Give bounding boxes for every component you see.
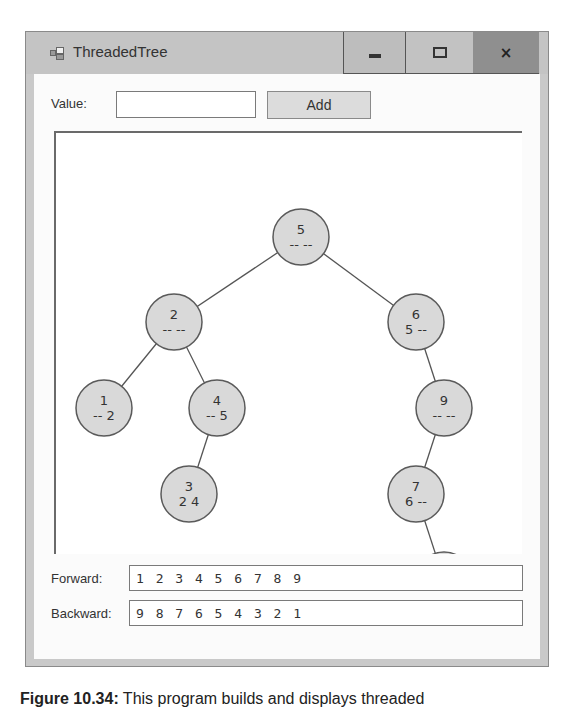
value-input[interactable] xyxy=(116,91,256,118)
add-button[interactable]: Add xyxy=(267,91,371,119)
value-label: Value: xyxy=(51,96,87,111)
node-threads: 5 -- xyxy=(405,322,427,337)
node-threads: -- -- xyxy=(433,408,456,423)
maximize-button[interactable] xyxy=(405,32,473,74)
figure-caption: Figure 10.34: This program builds and di… xyxy=(20,690,424,708)
minimize-icon xyxy=(369,54,381,58)
node-threads: 2 4 xyxy=(179,494,200,509)
close-button[interactable]: × xyxy=(473,32,539,74)
title-bar[interactable]: ThreadedTree × xyxy=(26,32,548,74)
app-icon xyxy=(50,47,64,59)
tree-node: 76 -- xyxy=(388,466,444,522)
tree-node: 9-- -- xyxy=(416,380,472,436)
tree-node: 1-- 2 xyxy=(76,380,132,436)
tree-node: 87 9 xyxy=(416,552,472,554)
tree-node: 4-- 5 xyxy=(189,380,245,436)
backward-output[interactable] xyxy=(129,600,523,626)
node-threads: -- 2 xyxy=(93,408,115,423)
tree-canvas: 5-- --2-- --65 --1-- 24-- 59-- --32 476 … xyxy=(54,131,522,554)
client-area: Value: Add 5-- --2-- --65 --1-- 24-- 59-… xyxy=(34,74,540,659)
minimize-button[interactable] xyxy=(343,32,405,74)
node-threads: -- -- xyxy=(290,237,313,252)
tree-node: 32 4 xyxy=(161,466,217,522)
close-icon: × xyxy=(500,44,513,62)
node-value: 7 xyxy=(412,479,420,494)
node-value: 5 xyxy=(297,222,305,237)
node-threads: 6 -- xyxy=(405,494,427,509)
node-value: 4 xyxy=(213,393,221,408)
node-value: 2 xyxy=(170,307,178,322)
forward-output[interactable] xyxy=(129,565,523,591)
app-window: ThreadedTree × Value: Add 5-- --2-- --65… xyxy=(25,31,549,667)
node-circle xyxy=(416,552,472,554)
node-value: 3 xyxy=(185,479,193,494)
window-title: ThreadedTree xyxy=(73,43,168,60)
tree-node: 2-- -- xyxy=(146,294,202,350)
caption-text: This program builds and displays threade… xyxy=(119,690,425,707)
tree-drawing: 5-- --2-- --65 --1-- 24-- 59-- --32 476 … xyxy=(56,133,522,554)
figure-number: Figure 10.34: xyxy=(20,690,119,707)
backward-label: Backward: xyxy=(51,606,112,621)
node-threads: -- 5 xyxy=(206,408,228,423)
forward-label: Forward: xyxy=(51,571,102,586)
node-threads: -- -- xyxy=(163,322,186,337)
tree-node: 5-- -- xyxy=(273,209,329,265)
node-value: 6 xyxy=(412,307,420,322)
node-value: 9 xyxy=(440,393,448,408)
maximize-icon xyxy=(433,47,447,58)
node-value: 1 xyxy=(100,393,108,408)
tree-node: 65 -- xyxy=(388,294,444,350)
